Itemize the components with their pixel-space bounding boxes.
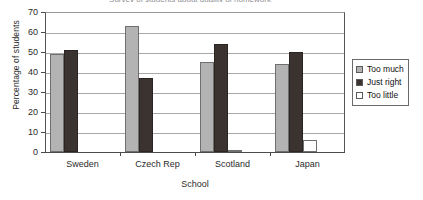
legend-swatch-just-right	[356, 79, 363, 86]
legend-item-too-much: Too much	[356, 63, 404, 76]
chart-legend: Too much Just right Too little	[352, 59, 409, 106]
legend-item-too-little: Too little	[356, 89, 404, 102]
y-axis-tick-label: 30	[16, 88, 38, 97]
bar-sweden-too-much	[50, 54, 64, 152]
x-axis-separator	[270, 152, 271, 156]
chart-container: Survey of students about quality of home…	[0, 0, 423, 200]
bar-japan-just-right	[289, 52, 303, 152]
bars-layer	[45, 12, 345, 152]
bar-sweden-just-right	[64, 50, 78, 152]
x-axis-title: School	[45, 179, 345, 189]
y-axis-tick-label: 20	[16, 108, 38, 117]
x-axis-separator	[195, 152, 196, 156]
legend-label-too-little: Too little	[367, 91, 398, 100]
x-axis-label-scotland: Scotland	[195, 159, 270, 169]
legend-label-just-right: Just right	[367, 78, 402, 87]
chart-title: Survey of students about quality of home…	[60, 0, 320, 2]
legend-swatch-too-much	[356, 66, 363, 73]
bar-scotland-just-right	[214, 44, 228, 152]
y-axis-tick-label: 0	[16, 148, 38, 157]
bar-japan-too-little	[303, 140, 317, 152]
bar-japan-too-much	[275, 64, 289, 152]
legend-item-just-right: Just right	[356, 76, 404, 89]
x-axis-separator	[120, 152, 121, 156]
y-axis-tick-label: 70	[16, 8, 38, 17]
y-axis-tick-label: 50	[16, 48, 38, 57]
legend-swatch-too-little	[356, 92, 363, 99]
bar-scotland-too-much	[200, 62, 214, 152]
legend-label-too-much: Too much	[367, 65, 404, 74]
bar-czech-rep-just-right	[139, 78, 153, 152]
y-axis-tick-label: 60	[16, 28, 38, 37]
bar-scotland-too-little	[228, 150, 242, 152]
x-axis-label-sweden: Sweden	[45, 159, 120, 169]
x-axis-label-japan: Japan	[270, 159, 345, 169]
y-axis-tick-label: 10	[16, 128, 38, 137]
x-axis-label-czech-rep: Czech Rep	[120, 159, 195, 169]
y-axis-tick-label: 40	[16, 68, 38, 77]
bar-czech-rep-too-much	[125, 26, 139, 152]
